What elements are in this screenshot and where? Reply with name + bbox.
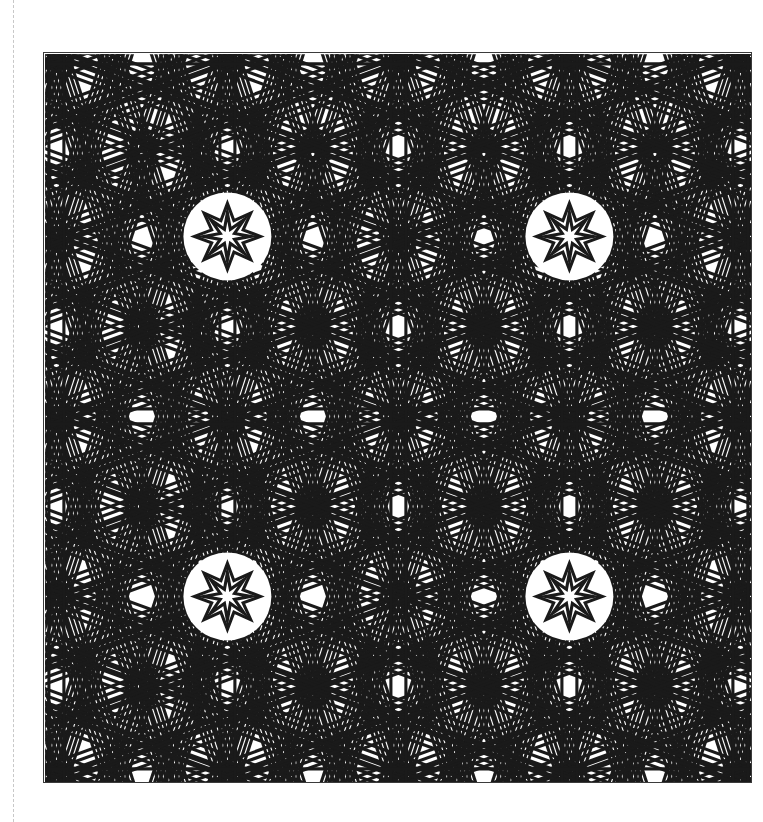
strapwork-group bbox=[43, 52, 752, 783]
coloring-page bbox=[0, 0, 763, 822]
page-margin-rule bbox=[13, 0, 14, 822]
geometric-pattern-canvas bbox=[43, 52, 752, 783]
artwork-frame bbox=[43, 52, 752, 783]
